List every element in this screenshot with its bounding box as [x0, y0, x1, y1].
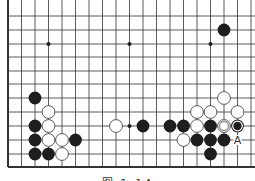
- black-stone: [29, 134, 42, 147]
- black-stone: [204, 120, 217, 133]
- black-stone: [204, 134, 217, 147]
- white-stone: [42, 134, 55, 147]
- black-stone: [29, 120, 42, 133]
- white-stone: [191, 120, 204, 133]
- diagram-caption: 图 1-14: [0, 174, 255, 181]
- white-stone: [191, 106, 204, 119]
- go-board: A: [0, 0, 255, 172]
- black-stone: [29, 92, 42, 105]
- white-stone: [177, 134, 190, 147]
- point-label: A: [234, 134, 242, 147]
- black-stone: [191, 134, 204, 147]
- white-stone: [56, 148, 69, 161]
- hoshi-point: [128, 42, 132, 46]
- white-stone: [204, 106, 217, 119]
- black-stone: [42, 148, 55, 161]
- white-stone: [218, 92, 231, 105]
- white-stone: [110, 120, 123, 133]
- hoshi-point: [47, 42, 51, 46]
- white-stone: [42, 106, 55, 119]
- black-stone: [69, 134, 82, 147]
- hoshi-point: [209, 42, 213, 46]
- black-stone: [177, 120, 190, 133]
- white-stone: [231, 106, 244, 119]
- black-stone: [218, 24, 231, 37]
- black-stone: [137, 120, 150, 133]
- hoshi-point: [128, 124, 132, 128]
- black-stone: [29, 148, 42, 161]
- black-stone: [204, 148, 217, 161]
- black-stone: [218, 134, 231, 147]
- white-stone: [56, 134, 69, 147]
- white-stone: [42, 120, 55, 133]
- black-stone: [164, 120, 177, 133]
